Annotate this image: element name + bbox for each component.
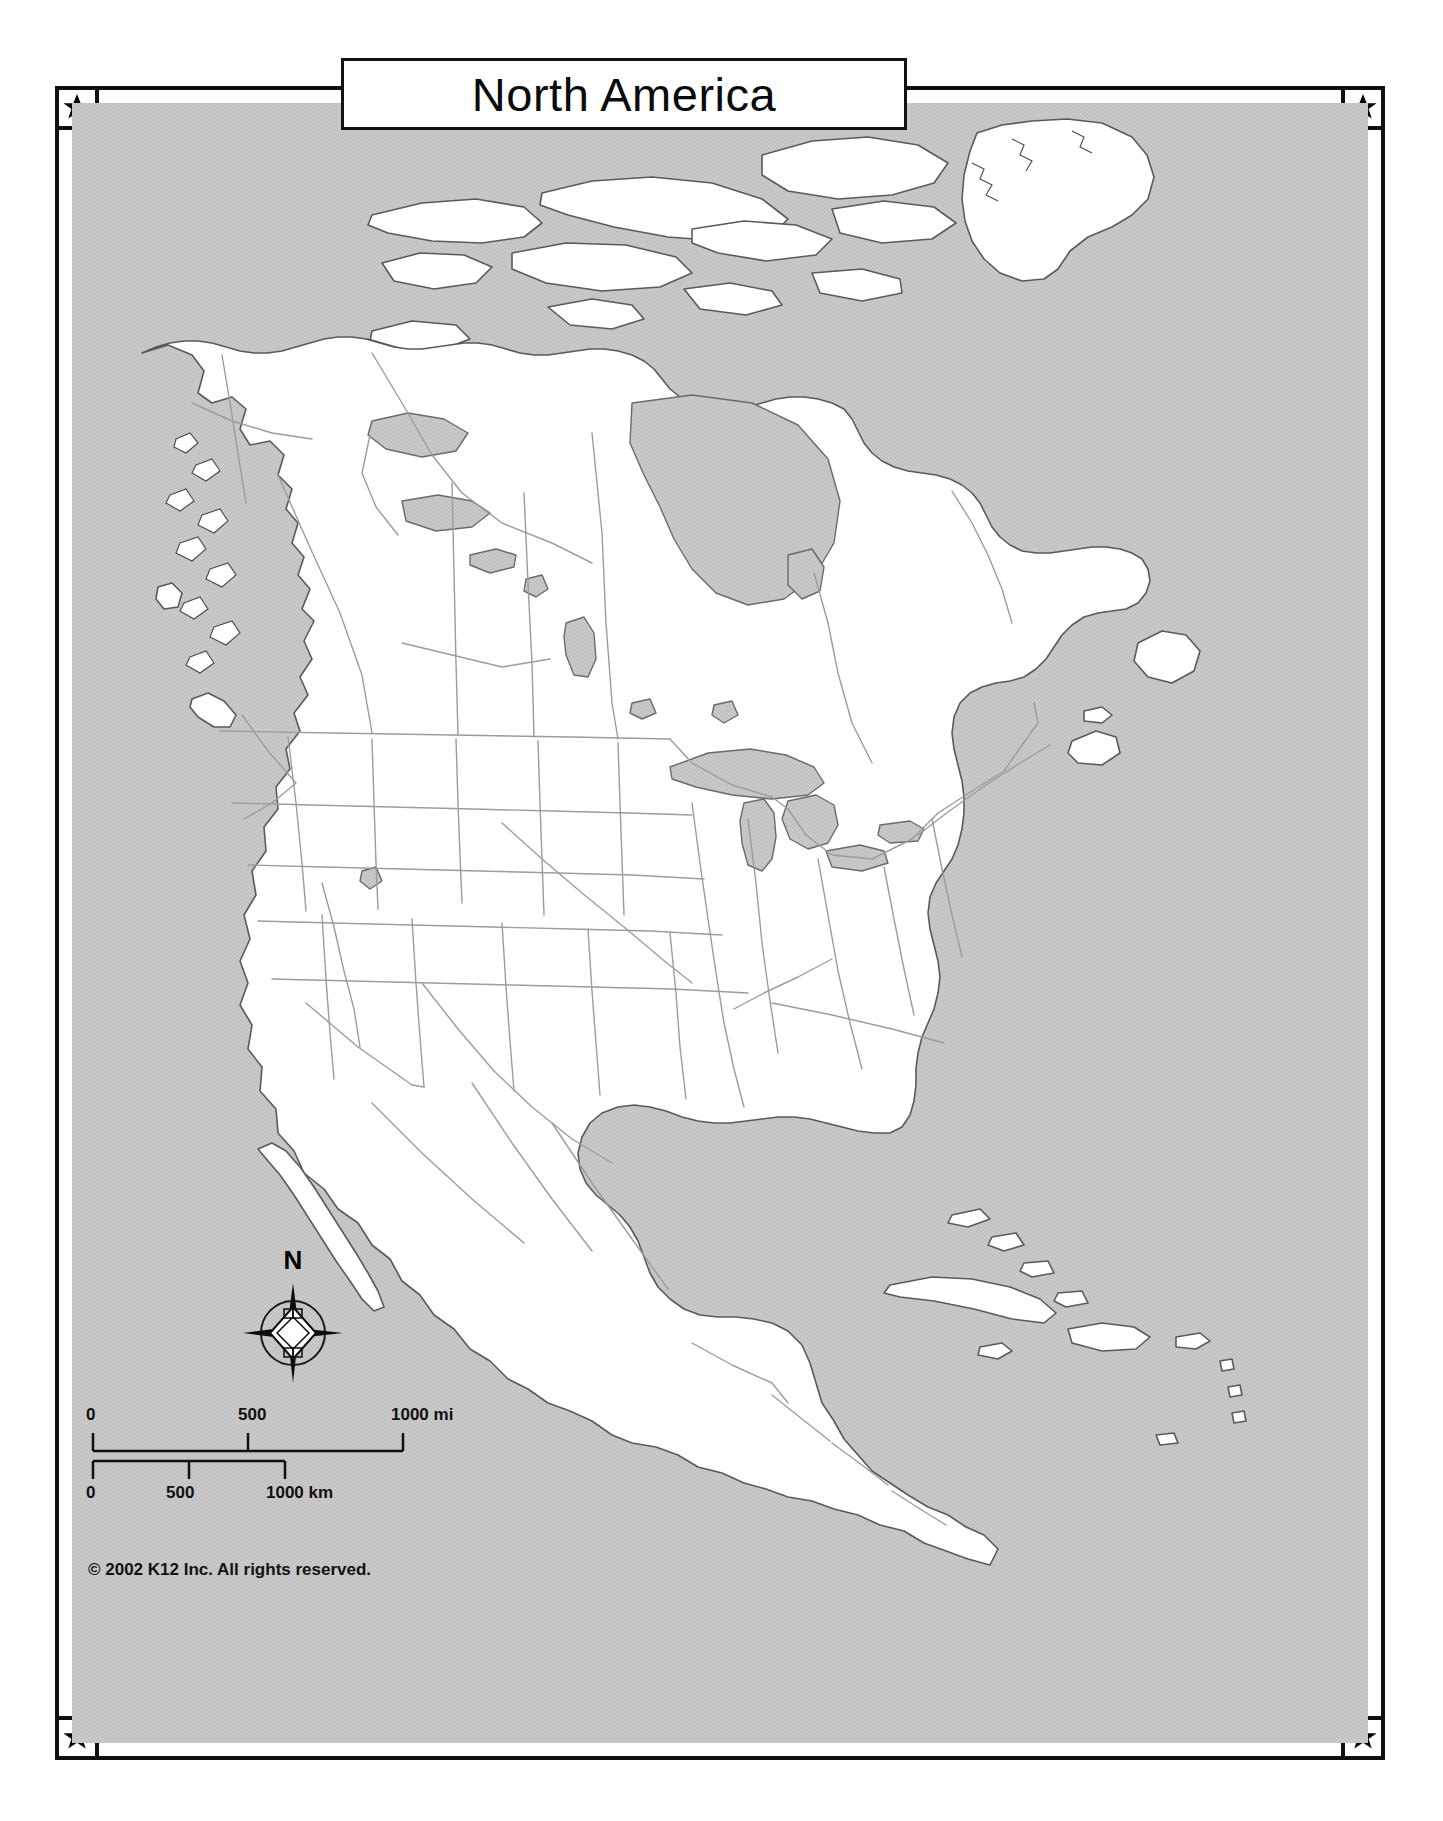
land-lesser-antilles-2 xyxy=(1228,1385,1242,1397)
map-canvas xyxy=(72,103,1368,1743)
map-title-plate: North America xyxy=(341,58,907,130)
page-title: North America xyxy=(472,71,776,118)
land-caribbean-island-small xyxy=(1156,1433,1178,1445)
lake-ontario xyxy=(878,821,924,843)
north-america-outline-map xyxy=(72,103,1368,1743)
land-lesser-antilles-1 xyxy=(1220,1359,1234,1371)
map-page: N 0 500 1000 mi xyxy=(0,0,1443,1821)
land-lesser-antilles-3 xyxy=(1232,1411,1246,1423)
